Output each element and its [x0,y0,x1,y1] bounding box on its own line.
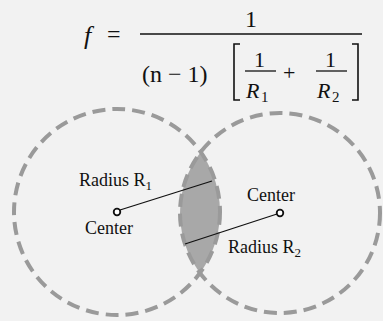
formula-numerator: 1 [245,6,257,32]
lens-diagram: f = 1 (n − 1) 1 R 1 + 1 R 2 Radius R1 Ce… [0,0,383,321]
term2-numerator: 1 [325,47,336,72]
right-center-point [277,210,284,217]
term1-numerator: 1 [254,47,265,72]
left-bracket [234,44,240,100]
label-left-center: Center [85,218,133,238]
formula-denominator-prefix: (n − 1) [142,61,208,87]
label-radius-r2: Radius R2 [228,237,301,260]
term1-denominator: R [245,78,260,103]
formula-lhs: f [84,21,95,50]
formula-equals: = [107,21,121,47]
formula-plus: + [283,60,295,85]
term1-subscript: 1 [261,89,269,105]
label-radius-r1: Radius R1 [79,170,152,193]
label-right-center: Center [247,185,295,205]
term2-subscript: 2 [332,89,340,105]
right-bracket [352,44,358,100]
term2-denominator: R [316,78,331,103]
left-center-point [114,209,121,216]
lensmaker-formula: f = 1 (n − 1) 1 R 1 + 1 R 2 [84,6,362,105]
